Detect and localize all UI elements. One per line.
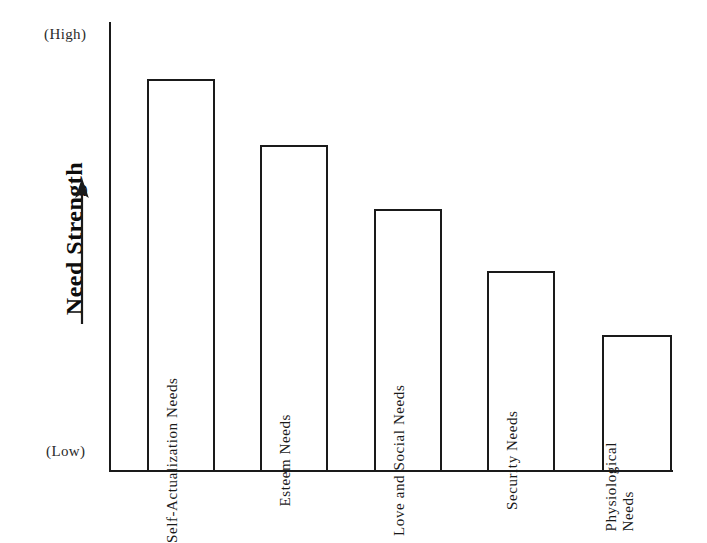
bar-label: Security Needs xyxy=(504,410,521,510)
y-axis-line xyxy=(109,22,111,472)
bar-label: Self-Actualization Needs xyxy=(164,377,181,543)
up-arrow-icon xyxy=(73,178,91,324)
bar-label-line: Physiological xyxy=(603,381,620,531)
bar: Esteem Needs xyxy=(260,145,328,472)
bar: PhysiologicalNeeds xyxy=(602,335,672,472)
bar: Love and Social Needs xyxy=(374,209,442,472)
bar-label: Love and Social Needs xyxy=(391,384,408,535)
bar: Self-Actualization Needs xyxy=(147,79,215,472)
y-axis-high-label: (High) xyxy=(44,26,86,43)
bar-label-line: Needs xyxy=(620,381,637,531)
bar-label: PhysiologicalNeeds xyxy=(603,381,638,531)
bar-label: Esteem Needs xyxy=(277,414,294,507)
y-axis-low-label: (Low) xyxy=(46,443,86,460)
bar: Security Needs xyxy=(487,271,555,472)
